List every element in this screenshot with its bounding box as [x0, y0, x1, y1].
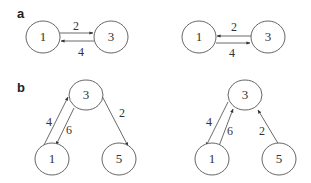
node-5-label: 5 [276, 151, 283, 166]
edge-weight: 2 [73, 19, 79, 33]
graph-b-left: 3 1 5 4 6 2 [35, 80, 136, 175]
edge-weight: 4 [229, 46, 235, 60]
panel-label-a: a [17, 6, 25, 21]
node-1-label: 1 [209, 151, 216, 166]
edge-weight: 4 [206, 115, 212, 129]
node-1-label: 1 [40, 29, 47, 44]
edge-weight: 4 [78, 45, 84, 59]
node-3-label: 3 [265, 29, 272, 44]
edge-weight: 2 [231, 20, 237, 34]
node-5-label: 5 [116, 151, 123, 166]
graph-b-right: 3 1 5 4 6 2 [195, 80, 296, 175]
edge-weight: 6 [227, 124, 233, 138]
panel-label-b: b [17, 80, 25, 95]
node-3-label: 3 [108, 29, 115, 44]
node-1-label: 1 [196, 29, 203, 44]
edge-weight: 6 [66, 123, 72, 137]
edge-weight: 2 [119, 106, 125, 120]
graph-a-right: 1 3 2 4 [182, 20, 285, 60]
node-3-label: 3 [242, 87, 249, 102]
graph-a-left: 1 3 2 4 [26, 19, 128, 59]
edge-3-to-5 [102, 96, 128, 146]
edge-weight: 2 [259, 124, 265, 138]
edge-weight: 4 [46, 115, 52, 129]
graph-diagram: a 1 3 2 4 1 3 2 4 b 3 1 5 4 6 2 [0, 0, 311, 183]
node-3-label: 3 [83, 87, 90, 102]
node-1-label: 1 [49, 151, 56, 166]
